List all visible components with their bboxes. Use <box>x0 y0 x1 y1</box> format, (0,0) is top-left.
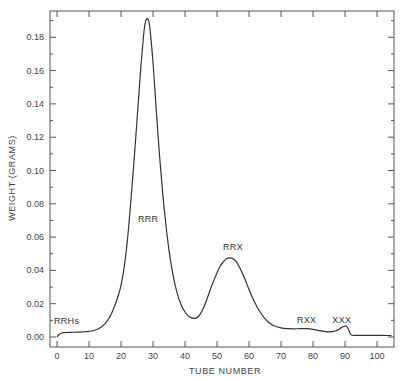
x-tick-label: 90 <box>340 351 350 361</box>
y-axis-title: WEIGHT (GRAMS) <box>7 135 17 221</box>
y-tick-label: 0.08 <box>26 199 44 209</box>
y-axis-ticks: 0.000.020.040.060.080.100.120.140.160.18 <box>26 21 394 342</box>
y-tick-label: 0.10 <box>26 166 44 176</box>
y-tick-label: 0.02 <box>26 299 44 309</box>
x-axis-title: TUBE NUMBER <box>189 366 261 376</box>
y-tick-label: 0.16 <box>26 66 44 76</box>
y-tick-label: 0.00 <box>26 332 44 342</box>
x-tick-label: 30 <box>148 351 158 361</box>
chromatogram-chart: 0102030405060708090100 0.000.020.040.060… <box>0 0 405 381</box>
plot-frame <box>50 11 394 347</box>
x-tick-label: 0 <box>54 351 59 361</box>
x-tick-label: 50 <box>212 351 222 361</box>
peak-label: XXX <box>332 315 351 325</box>
x-tick-label: 80 <box>308 351 318 361</box>
plot-border <box>50 11 394 347</box>
peak-label: RXX <box>297 315 316 325</box>
y-tick-label: 0.04 <box>26 265 44 275</box>
peak-label: RRHs <box>54 316 79 326</box>
x-axis-ticks: 0102030405060708090100 <box>54 11 384 361</box>
peak-label: RRX <box>223 242 243 252</box>
x-tick-label: 60 <box>244 351 254 361</box>
y-tick-label: 0.14 <box>26 99 44 109</box>
y-tick-label: 0.12 <box>26 132 44 142</box>
x-tick-label: 70 <box>276 351 286 361</box>
y-tick-label: 0.06 <box>26 232 44 242</box>
peak-label: RRR <box>138 214 159 224</box>
weight-curve <box>57 19 391 337</box>
x-tick-label: 40 <box>180 351 190 361</box>
y-tick-label: 0.18 <box>26 32 44 42</box>
x-tick-label: 100 <box>369 351 384 361</box>
x-tick-label: 20 <box>116 351 126 361</box>
data-series <box>57 19 391 337</box>
x-tick-label: 10 <box>84 351 94 361</box>
